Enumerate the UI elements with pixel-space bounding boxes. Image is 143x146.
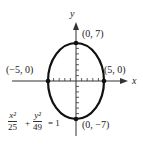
equation-x-numerator: x² [9, 111, 16, 120]
point-right [102, 79, 107, 84]
label-left-point: (−5, 0) [6, 65, 33, 75]
y-axis-label: y [70, 9, 74, 19]
equation-fraction-x: x² 25 [8, 111, 17, 132]
point-bottom [74, 117, 79, 122]
equation-y-denominator: 49 [33, 123, 42, 132]
label-bottom-point: (0, −7) [82, 120, 109, 130]
y-axis-arrow-icon [73, 22, 79, 30]
equation-x-denominator: 25 [8, 123, 17, 132]
label-top-point: (0, 7) [82, 29, 104, 39]
ellipse-diagram: y x (0, 7) (−5, 0) (5, 0) (0, −7) x² 25 … [0, 0, 143, 146]
point-left [46, 79, 51, 84]
equation-rhs: = 1 [48, 118, 60, 128]
label-right-point: (5, 0) [104, 65, 126, 75]
equation-fraction-y: y² 49 [33, 111, 42, 132]
point-top [74, 41, 79, 46]
equation-y-numerator: y² [34, 111, 41, 120]
equation-plus: + [25, 118, 30, 128]
x-axis-label: x [132, 76, 136, 86]
x-axis-arrow-icon [120, 78, 128, 84]
